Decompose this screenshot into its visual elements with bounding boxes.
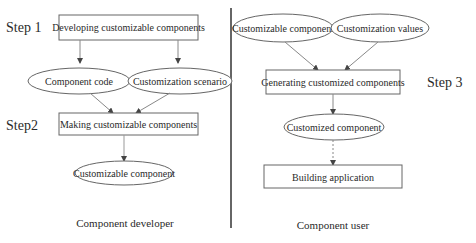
step3-label: Step 3 [427,75,462,90]
box-developing: Developing customizable components [52,15,205,40]
ellipse-component-code: Component code [28,68,130,94]
box-making-text: Making customizable components [60,119,197,130]
ellipse-customized-component: Customized component [284,114,384,140]
ellipse-customization-values-text: Customization values [337,23,423,34]
ellipse-customization-values: Customization values [331,14,429,42]
ellipse-customizable-component-dev-text: Customizable component [73,168,175,179]
ellipse-customization-scenario-text: Customization scenario [133,76,227,87]
box-building-text: Building application [292,172,374,183]
ellipse-customizable-component-user-text: Customizable component [232,23,334,34]
caption-user: Component user [297,219,370,231]
diagram-canvas: Step 1 Step2 Step 3 Developing customiza… [0,0,476,243]
arrow-scenario-to-making [136,93,170,113]
box-developing-text: Developing customizable components [52,22,205,33]
caption-developer: Component developer [76,217,174,229]
ellipse-customized-component-text: Customized component [287,122,382,133]
box-making: Making customizable components [59,113,198,135]
ellipse-component-code-text: Component code [45,76,114,87]
ellipse-customizable-component-dev: Customizable component [73,161,175,185]
box-generating: Generating customized components [261,70,404,94]
step2-label: Step2 [6,118,38,133]
step1-label: Step 1 [6,20,41,35]
box-generating-text: Generating customized components [261,77,404,88]
ellipse-customizable-component-user: Customizable component [232,14,334,42]
arrow-values-to-generating [345,42,378,70]
arrow-code-to-making [90,93,113,113]
box-building: Building application [264,165,402,188]
ellipse-customization-scenario: Customization scenario [128,68,232,94]
arrow-component-to-generating [285,42,318,70]
